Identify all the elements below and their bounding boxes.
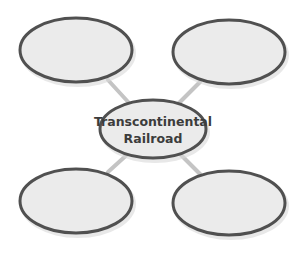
connector-top-left <box>108 80 130 104</box>
branch-node-top-right[interactable] <box>173 20 289 89</box>
center-label-line1: Transcontinental <box>94 114 212 129</box>
concept-web-diagram: Transcontinental Railroad <box>0 0 304 253</box>
connector-top-right <box>178 82 200 104</box>
branch-node-top-left[interactable] <box>20 18 136 87</box>
center-node[interactable]: Transcontinental Railroad <box>94 100 212 163</box>
center-label-line2: Railroad <box>124 131 183 146</box>
branch-node-bottom-left[interactable] <box>20 169 136 238</box>
branch-node-bottom-right[interactable] <box>173 171 289 240</box>
